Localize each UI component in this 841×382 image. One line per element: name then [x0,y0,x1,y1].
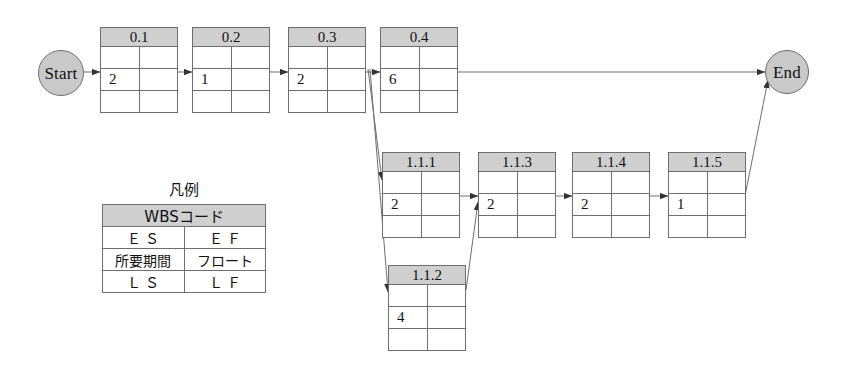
task-node-0-3[interactable]: 0.3 2 [288,27,366,113]
task-code: 1.1.1 [383,153,459,172]
task-cell-lf [420,91,458,112]
task-row-duration: 2 [479,194,555,216]
task-cell-float [232,69,270,90]
task-cell-ls [573,216,612,237]
task-cell-lf [708,216,746,237]
task-cell-float [420,69,458,90]
task-row-late [669,216,745,237]
task-cell-duration: 1 [193,69,232,90]
task-cell-duration: 1 [669,194,708,215]
task-cell-float [612,194,650,215]
start-node-label: Start [44,65,77,82]
task-cell-duration: 2 [573,194,612,215]
task-node-0-2[interactable]: 0.2 1 [192,27,270,113]
task-row-late [101,91,177,112]
task-cell-lf [422,216,460,237]
task-cell-es [383,172,422,193]
task-cell-float [518,194,556,215]
task-node-0-4[interactable]: 0.4 6 [380,27,458,113]
legend-row-duration: 所要期間 フロート [103,249,266,271]
task-cell-ef [140,47,178,68]
task-cell-es [479,172,518,193]
task-cell-lf [612,216,650,237]
task-cell-ef [422,172,460,193]
task-code: 0.3 [289,28,365,47]
task-row-early [573,172,649,194]
task-cell-ls [383,216,422,237]
legend-row-early: Ｅ Ｓ Ｅ Ｆ [103,227,266,249]
legend-row-late: Ｌ Ｓ Ｌ Ｆ [103,271,266,293]
legend-cell-duration: 所要期間 [103,249,185,271]
task-row-duration: 1 [669,194,745,216]
task-cell-duration: 2 [101,69,140,90]
task-cell-ef [328,47,366,68]
task-row-early [389,285,465,307]
task-cell-float [328,69,366,90]
task-node-0-1[interactable]: 0.1 2 [100,27,178,113]
task-code: 1.1.2 [389,266,465,285]
task-row-early [193,47,269,69]
task-cell-ls [101,91,140,112]
task-row-late [383,216,459,237]
task-cell-ef [420,47,458,68]
task-row-late [193,91,269,112]
legend-table: WBSコード Ｅ Ｓ Ｅ Ｆ 所要期間 フロート Ｌ Ｓ Ｌ Ｆ [102,204,266,293]
legend-cell-es: Ｅ Ｓ [103,227,185,249]
task-code: 1.1.4 [573,153,649,172]
task-node-1-1-5[interactable]: 1.1.5 1 [668,152,746,238]
task-row-duration: 6 [381,69,457,91]
legend-cell-ls: Ｌ Ｓ [103,271,185,293]
task-row-early [669,172,745,194]
task-code: 1.1.5 [669,153,745,172]
task-node-1-1-1[interactable]: 1.1.1 2 [382,152,460,238]
network-diagram-canvas: Start End 0.1 2 0.2 1 [0,0,841,382]
task-cell-es [101,47,140,68]
task-row-duration: 2 [289,69,365,91]
task-row-late [381,91,457,112]
task-code: 1.1.3 [479,153,555,172]
task-cell-ls [381,91,420,112]
task-cell-es [389,285,428,306]
task-row-duration: 2 [383,194,459,216]
end-node-label: End [773,64,801,81]
task-cell-float [428,307,466,328]
task-cell-es [669,172,708,193]
task-node-1-1-3[interactable]: 1.1.3 2 [478,152,556,238]
task-cell-ef [428,285,466,306]
task-cell-duration: 4 [389,307,428,328]
task-cell-lf [428,329,466,350]
edge-1-1-2-to-1-1-3 [466,202,478,290]
task-cell-lf [232,91,270,112]
legend: 凡例 WBSコード Ｅ Ｓ Ｅ Ｆ 所要期間 フロート Ｌ Ｓ Ｌ Ｆ [102,178,266,293]
task-cell-ef [518,172,556,193]
task-row-late [389,329,465,350]
task-row-late [479,216,555,237]
edge-1-1-5-to-end [745,80,768,196]
task-cell-lf [140,91,178,112]
task-row-early [479,172,555,194]
task-cell-es [193,47,232,68]
task-cell-duration: 6 [381,69,420,90]
task-cell-float [708,194,746,215]
task-node-1-1-2[interactable]: 1.1.2 4 [388,265,466,351]
task-row-duration: 2 [101,69,177,91]
task-cell-duration: 2 [383,194,422,215]
legend-cell-float: フロート [184,249,266,271]
task-row-early [289,47,365,69]
task-cell-float [422,194,460,215]
task-node-1-1-4[interactable]: 1.1.4 2 [572,152,650,238]
task-cell-ef [708,172,746,193]
task-cell-ef [612,172,650,193]
task-cell-es [381,47,420,68]
legend-cell-wbs-code: WBSコード [103,205,266,227]
task-code: 0.2 [193,28,269,47]
start-node[interactable]: Start [38,50,84,96]
task-cell-float [140,69,178,90]
task-cell-lf [518,216,556,237]
task-row-early [101,47,177,69]
end-node[interactable]: End [765,50,809,94]
legend-cell-ef: Ｅ Ｆ [184,227,266,249]
legend-row-header: WBSコード [103,205,266,227]
legend-cell-lf: Ｌ Ｆ [184,271,266,293]
task-cell-es [573,172,612,193]
